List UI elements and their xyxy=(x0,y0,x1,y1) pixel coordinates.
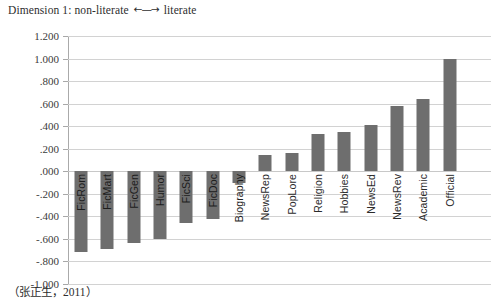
y-axis-label: 1.200 xyxy=(34,30,59,42)
x-axis-category-label: FicGen xyxy=(128,174,140,208)
bar-slot: NewsEd xyxy=(358,36,384,284)
bars-group: FicRomFicMartFicGenHumorFicSciFicDocBiog… xyxy=(68,36,463,284)
y-axis-label: .800 xyxy=(40,75,59,87)
chart-title-prefix: Dimension 1: non-literate xyxy=(8,4,132,16)
x-axis-category-label: FicMart xyxy=(101,174,113,210)
bar[interactable] xyxy=(285,153,298,171)
y-axis-label: -.600 xyxy=(36,233,59,245)
y-axis-label: .200 xyxy=(40,143,59,155)
y-axis-label: -.400 xyxy=(36,210,59,222)
x-axis-category-label: Academic xyxy=(417,174,429,221)
bar-slot: NewsRep xyxy=(252,36,278,284)
bar-slot: Humor xyxy=(147,36,173,284)
y-axis-label: .000 xyxy=(40,165,59,177)
x-axis-category-label: NewsEd xyxy=(365,174,377,214)
bar-slot: FicDoc xyxy=(200,36,226,284)
bar-slot: FicSci xyxy=(173,36,199,284)
y-axis-label: .400 xyxy=(40,120,59,132)
bar[interactable] xyxy=(312,134,325,171)
bar[interactable] xyxy=(443,59,456,172)
bar-slot: PopLore xyxy=(279,36,305,284)
x-axis-category-label: Humor xyxy=(154,174,166,206)
x-axis-category-label: NewsRep xyxy=(259,174,271,220)
bar[interactable] xyxy=(417,99,430,171)
bar-slot: Religion xyxy=(305,36,331,284)
bar[interactable] xyxy=(259,155,272,171)
y-axis-label: 1.000 xyxy=(34,53,59,65)
bar[interactable] xyxy=(364,125,377,171)
bar[interactable] xyxy=(391,106,404,171)
y-axis-label: -.200 xyxy=(36,188,59,200)
bar-slot: Academic xyxy=(410,36,436,284)
bar-slot: Official xyxy=(437,36,463,284)
x-axis-category-label: Official xyxy=(444,174,456,207)
bar-slot: Hobbies xyxy=(331,36,357,284)
x-axis-category-label: FicRom xyxy=(75,174,87,211)
x-axis-category-label: Biography xyxy=(233,174,245,222)
x-axis-category-label: FicSci xyxy=(180,174,192,203)
chart-title-suffix: literate xyxy=(161,4,197,16)
source-caption: （张正生，2011） xyxy=(8,283,97,299)
bar-slot: FicGen xyxy=(121,36,147,284)
x-axis-category-label: PopLore xyxy=(286,174,298,214)
x-axis-category-label: Religion xyxy=(312,174,324,213)
bar-slot: FicRom xyxy=(68,36,94,284)
bar-slot: Biography xyxy=(226,36,252,284)
y-axis-label: .600 xyxy=(40,98,59,110)
double-arrow-icon: ←—→ xyxy=(132,3,161,15)
x-axis-category-label: Hobbies xyxy=(338,174,350,213)
plot-area: 1.2001.000.800.600.400.200.000-.200-.400… xyxy=(68,36,463,284)
x-axis-category-label: NewsRev xyxy=(391,174,403,220)
bar-slot: FicMart xyxy=(94,36,120,284)
gridline xyxy=(68,284,491,285)
y-axis-label: -.800 xyxy=(36,255,59,267)
bar-slot: NewsRev xyxy=(384,36,410,284)
chart-title: Dimension 1: non-literate ←—→ literate xyxy=(8,4,196,16)
bar[interactable] xyxy=(338,132,351,171)
x-axis-category-label: FicDoc xyxy=(207,174,219,207)
